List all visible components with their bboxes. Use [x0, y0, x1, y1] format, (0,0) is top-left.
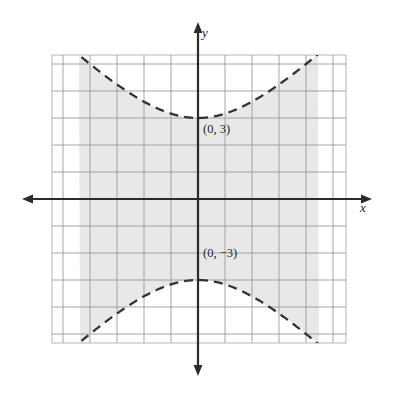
- x-axis-arrow-left-icon: [22, 195, 33, 204]
- vertex-bottom-label: (0, −3): [203, 246, 237, 261]
- y-axis-arrow-down-icon: [194, 365, 203, 376]
- hyperbola-inequality-graph: y x (0, 3) (0, −3): [0, 0, 394, 400]
- coordinate-plane-svg: [0, 0, 394, 400]
- x-axis-label: x: [360, 200, 366, 216]
- vertex-top-label: (0, 3): [203, 122, 230, 137]
- y-axis-label: y: [202, 25, 208, 41]
